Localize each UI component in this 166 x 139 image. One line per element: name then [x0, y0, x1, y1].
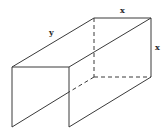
- bottom-left-receding-hidden-edge: [69, 77, 94, 92]
- bottom-left-receding-edge: [12, 92, 69, 127]
- label-top-width-x: x: [120, 5, 125, 15]
- box-diagram: y x x: [0, 0, 166, 139]
- label-length-y: y: [48, 27, 54, 37]
- label-right-height-x: x: [155, 42, 160, 52]
